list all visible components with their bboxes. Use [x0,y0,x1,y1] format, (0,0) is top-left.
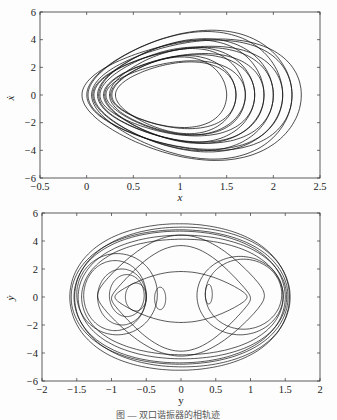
x-tick-label: 0 [84,181,89,192]
figure: −0.500.511.522.5−6−4−20246 x ẋ −2−1.5−1−… [0,0,337,420]
x-tick-label: −1 [106,384,117,395]
y-tick-label: −2 [27,320,38,331]
y-tick-label: 6 [31,7,36,18]
y-tick-label: −4 [25,145,37,156]
trajectory [70,224,290,370]
y-tick-label: −6 [25,173,36,184]
y-tick-label: 6 [33,208,38,219]
x-axis-label: y [178,394,184,406]
trajectory [82,30,301,160]
y-tick-label: −6 [27,376,38,387]
x-tick-label: 1 [248,384,253,395]
figure-caption: 图 — 双口谐振器的相轨迹 [116,409,220,420]
y-tick-label: 0 [31,90,36,101]
y-tick-label: −2 [25,117,36,128]
y-tick-label: 4 [31,34,37,45]
x-tick-label: 0.5 [209,384,222,395]
x-tick-label: −0.5 [137,384,156,395]
x-tick-label: 1.5 [279,384,292,395]
y-tick-label: 2 [31,62,36,73]
y-tick-label: −4 [27,348,39,359]
y-tick-label: 2 [33,264,38,275]
plot-y-phase: −2−1.5−1−0.500.511.52−6−4−20246 y ẏ [4,208,323,407]
axis-ticks: −0.500.511.522.5−6−4−20246 [25,7,327,193]
plot-x-phase: −0.500.511.522.5−6−4−20246 x ẋ [4,7,327,204]
x-axis-label: x [177,191,183,203]
x-tick-label: −1.5 [67,384,86,395]
x-tick-label: 0.5 [127,181,140,192]
x-tick-label: 1.5 [220,181,233,192]
x-tick-label: −2 [36,384,47,395]
y-axis-label: ẋ [4,95,16,101]
y-axis-label: ẏ [4,295,16,301]
x-tick-label: 2.5 [313,181,326,192]
y-tick-label: 4 [33,236,39,247]
x-tick-label: 2 [317,384,322,395]
y-tick-label: 0 [33,292,38,303]
x-tick-label: 2 [271,181,276,192]
